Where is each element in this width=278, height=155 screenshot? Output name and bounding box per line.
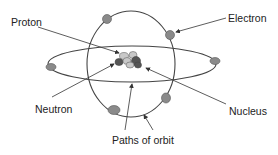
- electron: [162, 93, 171, 103]
- paths-pointer-2: [144, 115, 153, 130]
- paths-pointer-1: [125, 84, 132, 130]
- nucleus-label: Nucleus: [229, 105, 267, 117]
- neutron-pointer: [52, 64, 114, 97]
- nucleus-pointer: [146, 68, 226, 104]
- electron-pointer: [176, 18, 226, 32]
- electron: [108, 106, 120, 115]
- electron-label: Electron: [228, 12, 267, 24]
- proton-label: Proton: [11, 16, 42, 28]
- proton-pointer: [38, 27, 119, 53]
- neutron-label: Neutron: [35, 103, 73, 115]
- paths-label: Paths of orbit: [112, 134, 174, 146]
- nucleus: [115, 52, 142, 69]
- electron: [210, 58, 220, 65]
- atom-diagram: Proton Electron Neutron Nucleus Paths of…: [0, 0, 278, 155]
- electron: [166, 31, 175, 40]
- electron: [103, 15, 112, 24]
- electron: [46, 64, 56, 71]
